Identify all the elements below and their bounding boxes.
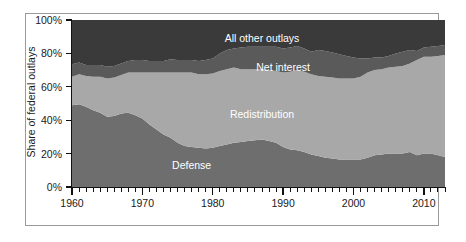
- x-tick-1970: [142, 188, 143, 195]
- x-tick-2002: [367, 188, 368, 192]
- x-tick-1989: [276, 188, 277, 192]
- x-tick-1977: [191, 188, 192, 192]
- x-tick-2012: [437, 188, 438, 192]
- x-tick-1999: [346, 188, 347, 192]
- y-tick-label-100: 100%: [28, 15, 62, 25]
- x-tick-2011: [430, 188, 431, 192]
- x-tick-2008: [409, 188, 410, 192]
- x-tick-1991: [290, 188, 291, 192]
- x-tick-label-1990: 1990: [263, 197, 303, 209]
- x-tick-1968: [128, 188, 129, 192]
- x-tick-1995: [318, 188, 319, 192]
- y-tick-label-80: 80%: [28, 48, 62, 58]
- plot-area: [72, 20, 445, 187]
- chart-figure: Share of federal outlays 100%80%60%40%20…: [0, 0, 466, 242]
- x-tick-1996: [325, 188, 326, 192]
- series-label-net-interest: Net interest: [223, 61, 343, 73]
- y-tick-label-60: 60%: [28, 82, 62, 92]
- x-tick-1988: [269, 188, 270, 192]
- x-tick-2000: [353, 188, 354, 195]
- y-tick-label-20: 20%: [28, 149, 62, 159]
- x-tick-1983: [233, 188, 234, 192]
- x-tick-2004: [381, 188, 382, 192]
- stacked-area-svg: [72, 20, 445, 187]
- x-tick-1985: [247, 188, 248, 192]
- x-tick-1986: [254, 188, 255, 192]
- series-label-redistribution: Redistribution: [202, 108, 322, 120]
- x-tick-1984: [240, 188, 241, 192]
- x-tick-1990: [282, 188, 283, 195]
- x-tick-1994: [311, 188, 312, 192]
- x-tick-label-1960: 1960: [52, 197, 92, 209]
- x-tick-1980: [212, 188, 213, 195]
- x-tick-1998: [339, 188, 340, 192]
- x-tick-1978: [198, 188, 199, 192]
- x-tick-1992: [297, 188, 298, 192]
- x-tick-1997: [332, 188, 333, 192]
- x-tick-1962: [86, 188, 87, 192]
- x-tick-1993: [304, 188, 305, 192]
- x-tick-1975: [177, 188, 178, 192]
- x-tick-1971: [149, 188, 150, 192]
- x-tick-label-2010: 2010: [404, 197, 444, 209]
- x-tick-1976: [184, 188, 185, 192]
- x-tick-1969: [135, 188, 136, 192]
- series-label-all-other-outlays: All other outlays: [202, 32, 322, 44]
- x-tick-1966: [114, 188, 115, 192]
- y-tick-label-0: 0%: [28, 182, 62, 192]
- y-tick-label-40: 40%: [28, 115, 62, 125]
- x-tick-1979: [205, 188, 206, 192]
- x-tick-2006: [395, 188, 396, 192]
- x-tick-1961: [79, 188, 80, 192]
- x-tick-1963: [93, 188, 94, 192]
- x-tick-1982: [226, 188, 227, 192]
- x-tick-1987: [262, 188, 263, 192]
- x-tick-2003: [374, 188, 375, 192]
- x-tick-label-2000: 2000: [334, 197, 374, 209]
- x-tick-1981: [219, 188, 220, 192]
- x-tick-2010: [423, 188, 424, 195]
- x-tick-1972: [156, 188, 157, 192]
- x-tick-2001: [360, 188, 361, 192]
- x-tick-1964: [100, 188, 101, 192]
- x-tick-2013: [445, 188, 446, 192]
- x-tick-2007: [402, 188, 403, 192]
- x-tick-2009: [416, 188, 417, 192]
- x-tick-1960: [71, 188, 72, 195]
- x-tick-1967: [121, 188, 122, 192]
- x-tick-label-1980: 1980: [193, 197, 233, 209]
- x-tick-1974: [170, 188, 171, 192]
- x-tick-label-1970: 1970: [122, 197, 162, 209]
- x-tick-1973: [163, 188, 164, 192]
- x-tick-2005: [388, 188, 389, 192]
- x-tick-1965: [107, 188, 108, 192]
- series-label-defense: Defense: [132, 159, 252, 171]
